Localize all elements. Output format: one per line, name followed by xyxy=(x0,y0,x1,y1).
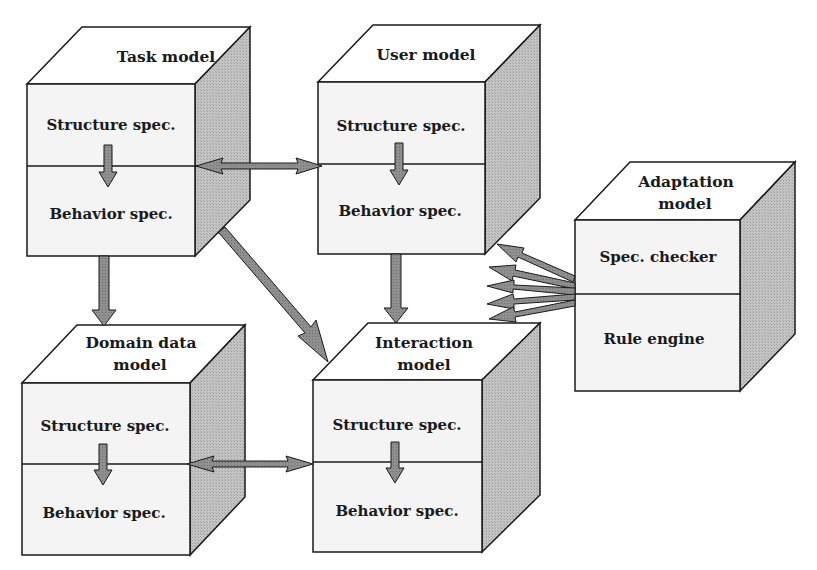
user-model-behavior-spec: Behavior spec. xyxy=(338,202,461,220)
user-model-cube: User model Structure spec. Behavior spec… xyxy=(318,25,540,254)
task-model-title: Task model xyxy=(117,47,215,66)
domain-data-model-cube: Domain data model Structure spec. Behavi… xyxy=(22,325,245,555)
domain-model-structure-spec: Structure spec. xyxy=(40,417,169,435)
domain-interaction-bidirectional-arrow xyxy=(187,456,313,472)
adaptation-model-cube: Adaptation model Spec. checker Rule engi… xyxy=(575,162,795,391)
interaction-model-structure-spec: Structure spec. xyxy=(332,416,461,434)
user-model-title: User model xyxy=(377,45,476,64)
adaptation-model-title-line-1: Adaptation xyxy=(637,172,734,191)
adaptation-model-rule-engine: Rule engine xyxy=(604,330,705,348)
task-domain-arrow xyxy=(92,256,116,326)
task-model-cube: Task model Structure spec. Behavior spec… xyxy=(27,27,250,256)
interaction-model-cube: Interaction model Structure spec. Behavi… xyxy=(313,323,540,552)
domain-model-title-line-1: Domain data xyxy=(86,333,197,352)
task-model-behavior-spec: Behavior spec. xyxy=(49,205,172,223)
interaction-model-title-line-1: Interaction xyxy=(375,333,473,352)
user-interaction-arrow xyxy=(384,254,408,323)
adaptation-model-spec-checker: Spec. checker xyxy=(600,248,718,266)
adaptation-fanout-arrows xyxy=(487,244,575,322)
adaptation-model-front-face xyxy=(575,220,740,391)
user-model-structure-spec: Structure spec. xyxy=(336,117,465,135)
interaction-model-behavior-spec: Behavior spec. xyxy=(335,502,458,520)
task-user-bidirectional-arrow xyxy=(196,158,322,174)
task-model-structure-spec: Structure spec. xyxy=(46,116,175,134)
domain-model-title-line-2: model xyxy=(113,355,166,374)
domain-model-behavior-spec: Behavior spec. xyxy=(42,504,165,522)
architecture-diagram: Task model Structure spec. Behavior spec… xyxy=(0,0,817,570)
adaptation-model-title-line-2: model xyxy=(658,194,711,213)
interaction-model-title-line-2: model xyxy=(397,355,450,374)
